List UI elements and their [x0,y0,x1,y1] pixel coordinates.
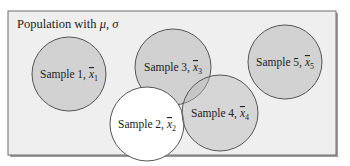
sample-4-group: Sample 4, x4 [182,75,258,151]
sample-2-group: Sample 2, x2 [110,87,184,161]
sample-5-group: Sample 5, x5 [248,25,322,99]
population-sampling-diagram: Population with μ, σ Sample 1, x1Sample … [0,0,350,166]
sample-1-group: Sample 1, x1 [32,37,106,111]
population-title: Population with μ, σ [17,17,119,31]
